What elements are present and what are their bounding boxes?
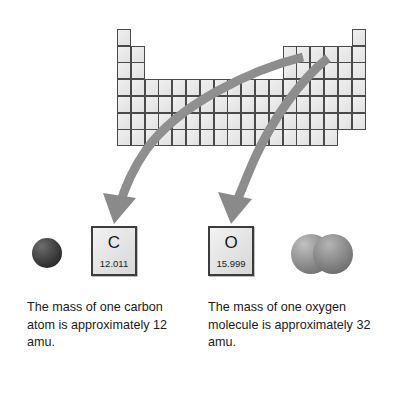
periodic-table-cell xyxy=(145,96,159,113)
periodic-table-cell xyxy=(352,62,366,79)
periodic-table-cell xyxy=(296,79,310,96)
carbon-symbol: C xyxy=(93,234,135,252)
periodic-table-cell xyxy=(269,113,283,130)
periodic-table-cell xyxy=(131,46,145,63)
periodic-table-cell xyxy=(117,46,131,63)
periodic-table-cell xyxy=(158,96,172,113)
periodic-table-cell xyxy=(310,129,324,146)
oxygen-atom-right-sphere xyxy=(313,234,353,274)
periodic-table-cell xyxy=(241,129,255,146)
carbon-atomic-mass: 12.011 xyxy=(93,259,135,269)
periodic-table-cell xyxy=(296,113,310,130)
carbon-caption: The mass of one carbon atom is approxima… xyxy=(27,299,192,352)
periodic-table-cell xyxy=(324,129,338,146)
periodic-table-cell xyxy=(200,129,214,146)
periodic-table-cell xyxy=(283,62,297,79)
periodic-table-cell xyxy=(227,113,241,130)
periodic-table-cell xyxy=(227,129,241,146)
periodic-table-cell xyxy=(352,46,366,63)
periodic-table-cell xyxy=(283,96,297,113)
oxygen-caption: The mass of one oxygen molecule is appro… xyxy=(208,299,388,352)
periodic-table-cell xyxy=(131,62,145,79)
figure-atomic-mass: C 12.011 O 15.999 The mass of one carbon… xyxy=(0,0,395,399)
oxygen-symbol: O xyxy=(210,234,252,252)
periodic-table-cell xyxy=(117,129,131,146)
periodic-table-cell xyxy=(172,79,186,96)
periodic-table-cell xyxy=(117,79,131,96)
periodic-table-cell xyxy=(172,96,186,113)
periodic-table-cell xyxy=(145,129,159,146)
periodic-table-cell xyxy=(352,29,366,46)
periodic-table-cell xyxy=(338,62,352,79)
periodic-table-cell xyxy=(186,79,200,96)
periodic-table-cell xyxy=(227,79,241,96)
periodic-table-cell xyxy=(310,46,324,63)
periodic-table-cell xyxy=(200,96,214,113)
periodic-table-cell xyxy=(338,79,352,96)
periodic-table-cell xyxy=(145,79,159,96)
periodic-table-cell xyxy=(352,96,366,113)
periodic-table-cell xyxy=(186,96,200,113)
periodic-table-cell xyxy=(172,113,186,130)
periodic-table-cell xyxy=(241,113,255,130)
periodic-table-cell xyxy=(296,62,310,79)
periodic-table-cell xyxy=(338,96,352,113)
periodic-table-cell xyxy=(158,113,172,130)
periodic-table-cell xyxy=(145,113,159,130)
periodic-table-cell xyxy=(283,129,297,146)
periodic-table-cell xyxy=(310,96,324,113)
periodic-table-cell xyxy=(324,79,338,96)
periodic-table-cell xyxy=(241,96,255,113)
periodic-table-cell xyxy=(214,79,228,96)
periodic-table-cell xyxy=(241,79,255,96)
periodic-table-cell xyxy=(352,113,366,130)
carbon-element-box[interactable]: C 12.011 xyxy=(91,226,137,276)
periodic-table-cell xyxy=(200,113,214,130)
periodic-table-cell xyxy=(296,129,310,146)
periodic-table-cell xyxy=(255,129,269,146)
periodic-table-cell xyxy=(158,129,172,146)
periodic-table-cell xyxy=(214,96,228,113)
periodic-table-cell xyxy=(269,96,283,113)
periodic-table-cell xyxy=(338,113,352,130)
periodic-table-cell xyxy=(131,79,145,96)
periodic-table-cell xyxy=(200,79,214,96)
periodic-table-outline xyxy=(117,29,365,146)
periodic-table-cell xyxy=(131,96,145,113)
periodic-table-cell xyxy=(283,46,297,63)
periodic-table-cell xyxy=(296,96,310,113)
periodic-table-cell xyxy=(117,62,131,79)
periodic-table-cell xyxy=(324,46,338,63)
periodic-table-cell xyxy=(186,113,200,130)
periodic-table-cell xyxy=(186,129,200,146)
periodic-table-cell xyxy=(158,79,172,96)
periodic-table-cell xyxy=(283,79,297,96)
periodic-table-cell xyxy=(338,46,352,63)
periodic-table-cell xyxy=(227,96,241,113)
periodic-table-cell xyxy=(131,113,145,130)
periodic-table-cell xyxy=(214,129,228,146)
periodic-table-cell xyxy=(255,79,269,96)
periodic-table-cell xyxy=(310,113,324,130)
oxygen-molecule-spheres xyxy=(291,234,353,274)
periodic-table-cell xyxy=(352,79,366,96)
oxygen-atomic-mass: 15.999 xyxy=(210,259,252,269)
periodic-table-cell xyxy=(131,129,145,146)
periodic-table-cell xyxy=(117,29,131,46)
periodic-table-cell xyxy=(117,113,131,130)
periodic-table-cell xyxy=(269,79,283,96)
periodic-table-cell xyxy=(310,79,324,96)
periodic-table-cell xyxy=(214,113,228,130)
periodic-table-cell xyxy=(283,113,297,130)
periodic-table-cell xyxy=(255,113,269,130)
periodic-table-cell xyxy=(117,96,131,113)
periodic-table-cell xyxy=(255,96,269,113)
carbon-atom-sphere xyxy=(32,238,62,268)
oxygen-element-box[interactable]: O 15.999 xyxy=(208,226,254,276)
periodic-table-cell xyxy=(324,96,338,113)
periodic-table-cell xyxy=(296,46,310,63)
periodic-table-cell xyxy=(269,129,283,146)
periodic-table-cell xyxy=(310,62,324,79)
periodic-table-cell xyxy=(324,113,338,130)
periodic-table-cell xyxy=(172,129,186,146)
